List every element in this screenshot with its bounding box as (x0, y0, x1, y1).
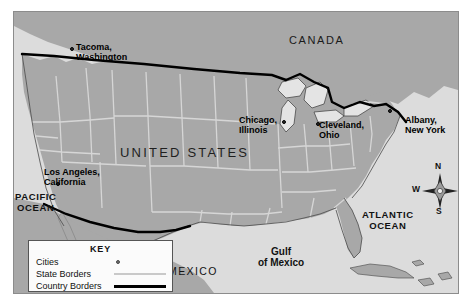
compass-star-icon (420, 171, 459, 211)
label-united-states: UNITED STATES (120, 146, 249, 161)
label-city-cleveland: Cleveland, Ohio (319, 120, 364, 140)
city-dot-chicago (282, 120, 286, 124)
caribbean-islands (350, 260, 452, 286)
legend-label-cities: Cities (36, 257, 114, 267)
compass-rose: N S W E (412, 162, 459, 218)
legend-item-cities: Cities (29, 256, 172, 268)
city-dot-tacoma (70, 47, 74, 51)
map-screenshot: CANADA UNITED STATES MEXICO PACIFIC OCEA… (0, 0, 470, 302)
label-city-los-angeles: Los Angeles, California (44, 167, 100, 187)
legend-item-state-borders: State Borders (29, 268, 172, 280)
label-gulf-of-mexico: Gulf of Mexico (258, 246, 304, 268)
map-frame: CANADA UNITED STATES MEXICO PACIFIC OCEA… (13, 11, 459, 294)
compass-west-label: W (412, 184, 420, 194)
compass-north-label: N (435, 161, 441, 171)
map-legend: KEY Cities State Borders Country Borders (28, 240, 173, 292)
label-atlantic-ocean: ATLANTIC OCEAN (362, 210, 414, 231)
legend-swatch-state-line (114, 273, 166, 275)
label-city-tacoma: Tacoma, Washington (76, 42, 127, 62)
label-city-albany: Albany, New York (405, 115, 445, 135)
label-pacific-ocean: PACIFIC OCEAN (15, 192, 57, 213)
label-mexico: MEXICO (168, 266, 218, 278)
city-dot-albany (388, 109, 392, 113)
legend-title: KEY (29, 244, 172, 254)
legend-label-country-borders: Country Borders (36, 281, 114, 291)
label-city-chicago: Chicago, Illinois (239, 115, 277, 135)
legend-item-country-borders: Country Borders (29, 280, 172, 292)
legend-label-state-borders: State Borders (36, 269, 114, 279)
legend-swatch-city-dot (116, 260, 120, 264)
legend-swatch-country-line (114, 285, 166, 288)
label-canada: CANADA (289, 34, 344, 46)
